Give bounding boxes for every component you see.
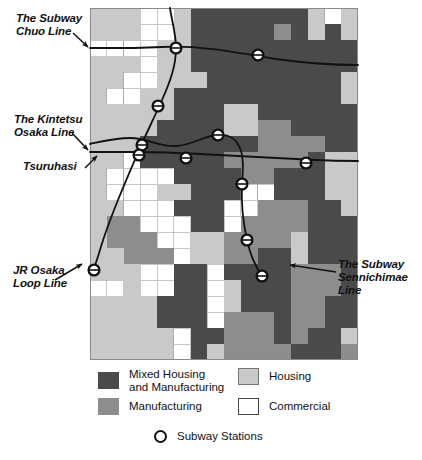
label-subway-chuo-line: The Subway Chuo Line (16, 12, 82, 38)
legend-swatch-commercial (238, 398, 259, 415)
station-marker[interactable] (242, 235, 253, 246)
label-jr-osaka-loop-line: JR Osaka Loop Line (13, 264, 67, 290)
subway-line-kintetsu (90, 152, 358, 161)
legend-swatch-manufacturing (98, 398, 119, 415)
map-legend: Mixed Housing and Manufacturing Manufact… (98, 366, 398, 456)
station-marker[interactable] (171, 43, 182, 54)
legend-item-housing: Housing (238, 368, 311, 385)
legend-label-commercial: Commercial (269, 400, 330, 413)
map-page: The Subway Chuo Line The Kintetsu Osaka … (0, 0, 422, 460)
label-tsuruhasi-station: Tsuruhasi (23, 160, 77, 173)
station-marker[interactable] (253, 50, 264, 61)
legend-item-manufacturing: Manufacturing (98, 398, 202, 415)
legend-item-mixed-housing: Mixed Housing and Manufacturing (98, 368, 224, 393)
station-marker[interactable] (153, 101, 164, 112)
station-marker[interactable] (213, 130, 224, 141)
station-marker[interactable] (181, 153, 192, 164)
legend-item-subway-stations: Subway Stations (154, 430, 263, 443)
subway-line-chuo (90, 47, 358, 65)
legend-item-commercial: Commercial (238, 398, 330, 415)
label-subway-sennichimae-line: The Subway Sennichimae Line (338, 258, 408, 297)
land-use-map (90, 8, 358, 360)
legend-label-manufacturing: Manufacturing (129, 400, 202, 413)
station-marker[interactable] (89, 265, 100, 276)
legend-label-mixed-housing: Mixed Housing and Manufacturing (129, 368, 224, 393)
station-marker[interactable] (237, 179, 248, 190)
legend-label-subway-stations: Subway Stations (177, 430, 263, 443)
legend-label-housing: Housing (269, 370, 311, 383)
subway-stations-group (89, 43, 312, 282)
station-marker[interactable] (257, 271, 268, 282)
subway-station-icon (154, 430, 167, 443)
station-marker[interactable] (134, 150, 145, 161)
legend-swatch-housing (238, 368, 259, 385)
subway-network-overlay (90, 8, 358, 360)
label-kintetsu-osaka-line: The Kintetsu Osaka Line (14, 113, 82, 139)
legend-swatch-mixed-housing (98, 372, 119, 389)
station-marker[interactable] (301, 158, 312, 169)
